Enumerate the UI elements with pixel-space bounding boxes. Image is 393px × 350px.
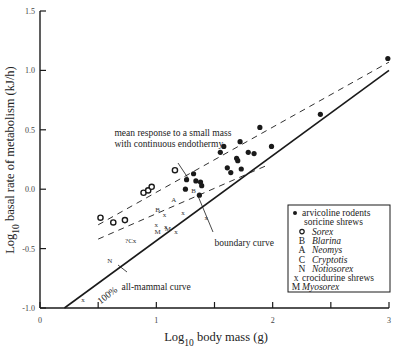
x-tick-label: 1 — [154, 316, 158, 325]
y-tick-label: -1.0 — [22, 304, 35, 313]
data-point-arvicoline-rodents — [193, 178, 198, 183]
data-point-blarina: B — [191, 187, 196, 195]
data-point-blarina: B — [155, 206, 160, 214]
axes: 01231.51.00.50.0-0.5-1.0Log10 body mass … — [3, 7, 391, 348]
data-point-crocidurine-shrews: x — [163, 211, 167, 219]
legend-symbol-filled-circle — [293, 211, 297, 215]
data-point-myosorex: M — [154, 228, 161, 236]
data-point-sorex — [172, 168, 177, 173]
data-point-arvicoline-rodents — [251, 151, 256, 156]
data-point-arvicoline-rodents — [269, 144, 274, 149]
data-point-sorex — [111, 220, 116, 225]
data-point-sorex — [122, 217, 127, 222]
y-tick-label: 1.0 — [25, 66, 35, 75]
data-point-arvicoline-rodents — [184, 177, 189, 182]
y-tick-label: 0.0 — [25, 185, 35, 194]
data-point-arvicoline-rodents — [385, 56, 390, 61]
data-point-crocidurine-shrews: x — [81, 296, 85, 304]
y-tick-label: 1.5 — [25, 7, 35, 16]
data-point-arvicoline-rodents — [318, 112, 323, 117]
legend-symbol-open-circle — [300, 229, 304, 233]
data-point-myosorex: M — [165, 225, 172, 233]
data-point-arvicoline-rodents — [225, 165, 230, 170]
x-tick-label: 3 — [387, 316, 391, 325]
legend-label: Myosorex — [301, 282, 340, 292]
data-point-arvicoline-rodents — [197, 193, 202, 198]
data-point-sorex — [98, 215, 103, 220]
annotation-100-percent: 100% — [96, 284, 120, 306]
data-point-arvicoline-rodents — [239, 166, 244, 171]
data-point-arvicoline-rodents — [183, 187, 188, 192]
legend-symbol: M — [292, 282, 301, 292]
data-point-sorex — [149, 184, 154, 189]
data-point-arvicoline-rodents — [199, 183, 204, 188]
legend: arvicoline rodentssoricine shrewsSorexBB… — [288, 205, 390, 292]
data-point-arvicoline-rodents — [228, 170, 233, 175]
annotation-mean-response: mean response to a small masswith contin… — [114, 128, 231, 149]
chart-figure: 01231.51.00.50.0-0.5-1.0Log10 body mass … — [0, 0, 393, 350]
data-point-arvicoline-rodents — [218, 150, 223, 155]
leader-mean-response — [178, 163, 188, 178]
y-axis-title: Log10 basal rate of metabolism (kJ/h) — [3, 66, 21, 254]
x-axis-title: Log10 body mass (g) — [164, 330, 268, 348]
x-tick-label: 0 — [38, 316, 42, 325]
data-point-crocidurine-shrews: x — [181, 209, 185, 217]
dashed-curve — [98, 165, 267, 239]
data-point-cryptotis: ?Cx — [125, 237, 137, 245]
data-point-arvicoline-rodents — [257, 125, 262, 130]
y-tick-label: 0.5 — [25, 126, 35, 135]
x-tick-label: 2 — [271, 316, 275, 325]
data-point-crocidurine-shrews: x — [174, 228, 178, 236]
data-point-notiosorex: N — [107, 257, 112, 265]
data-point-arvicoline-rodents — [246, 150, 251, 155]
annotation-boundary-curve: boundary curve — [215, 238, 274, 248]
data-point-arvicoline-rodents — [237, 139, 242, 144]
data-point-arvicoline-rodents — [191, 171, 196, 176]
annotation-all-mammal-curve: all-mammal curve — [121, 282, 190, 292]
data-point-arvicoline-rodents — [235, 158, 240, 163]
data-point-neomys: A — [171, 196, 176, 204]
y-tick-label: -0.5 — [22, 245, 35, 254]
